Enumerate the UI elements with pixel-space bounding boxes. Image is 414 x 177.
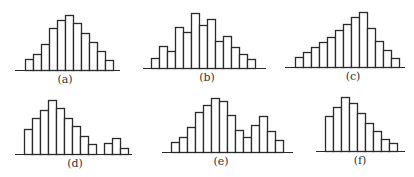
histogram-bar — [121, 149, 129, 155]
histogram-label-b: (b) — [187, 71, 227, 84]
histogram-bar — [58, 21, 66, 71]
histogram-bar — [57, 109, 65, 155]
histogram-bar — [276, 141, 284, 153]
histogram-bar — [248, 60, 256, 69]
histogram-a — [15, 16, 120, 71]
histogram-bar — [304, 53, 312, 68]
histogram-bar — [352, 18, 360, 68]
histogram-bar — [236, 131, 244, 153]
histogram-bar — [81, 137, 89, 155]
histogram-bar — [66, 16, 74, 71]
histogram-bar — [89, 145, 97, 155]
histogram-label-e: (e) — [201, 155, 241, 168]
histogram-bar — [184, 33, 192, 69]
histogram-bar — [228, 116, 236, 153]
histogram-bar — [334, 108, 342, 152]
histogram-bar — [152, 59, 160, 69]
histogram-bar — [82, 34, 90, 71]
histogram-bar — [216, 42, 224, 69]
histogram-bar — [260, 117, 268, 153]
histogram-bar — [73, 127, 81, 155]
histogram-bar — [358, 114, 366, 152]
histogram-bar — [200, 26, 208, 69]
histogram-bar — [220, 102, 228, 153]
histogram-d — [15, 101, 132, 155]
histogram-b — [143, 14, 266, 69]
histogram-bar — [49, 101, 57, 155]
histogram-bar — [212, 99, 220, 153]
histogram-bar — [42, 45, 50, 71]
histogram-bar — [33, 119, 41, 155]
histogram-bar — [366, 124, 374, 152]
histogram-bar — [50, 29, 58, 71]
histogram-bar — [105, 144, 113, 155]
histogram-bar — [344, 25, 352, 68]
histogram-bar — [180, 138, 188, 153]
histogram-bar — [160, 47, 168, 69]
histogram-bar — [232, 48, 240, 69]
histogram-f — [316, 98, 405, 152]
histogram-bar — [368, 29, 376, 68]
histogram-bar — [188, 128, 196, 153]
histogram-bar — [384, 51, 392, 68]
histogram-bar — [312, 48, 320, 68]
histogram-bar — [192, 14, 200, 69]
histogram-bar — [224, 37, 232, 69]
histogram-bar — [350, 104, 358, 152]
histogram-bar — [25, 130, 33, 155]
histogram-bar — [98, 52, 106, 71]
histogram-bar — [168, 52, 176, 69]
histogram-label-f: (f) — [340, 154, 380, 167]
histograms-svg — [0, 0, 414, 177]
histogram-bar — [34, 55, 42, 71]
histogram-bar — [376, 42, 384, 68]
histogram-bar — [204, 106, 212, 153]
histogram-bar — [172, 143, 180, 153]
histogram-bar — [382, 140, 390, 152]
histogram-bar — [65, 119, 73, 155]
histogram-bar — [326, 117, 334, 152]
histogram-bar — [390, 144, 398, 152]
histogram-bar — [26, 60, 34, 71]
histogram-label-c: (c) — [333, 70, 373, 83]
histogram-bar — [392, 59, 400, 68]
histogram-bar — [196, 113, 204, 153]
histogram-bar — [320, 43, 328, 68]
histogram-bar — [296, 58, 304, 68]
histogram-bar — [74, 24, 82, 71]
histogram-bar — [106, 61, 114, 71]
histogram-bar — [41, 111, 49, 155]
histogram-bar — [208, 20, 216, 69]
histogram-bar — [113, 139, 121, 155]
histogram-bar — [342, 98, 350, 152]
histogram-bar — [268, 132, 276, 153]
histogram-bar — [90, 43, 98, 71]
histogram-label-d: (d) — [55, 157, 95, 170]
histogram-label-a: (a) — [45, 73, 85, 86]
histogram-c — [285, 13, 405, 68]
histogram-bar — [244, 138, 252, 153]
histogram-bar — [360, 13, 368, 68]
histogram-bar — [240, 55, 248, 69]
histogram-bar — [252, 126, 260, 153]
histogram-bar — [336, 31, 344, 68]
histogram-bar — [176, 28, 184, 69]
histogram-bar — [374, 132, 382, 152]
histogram-e — [162, 99, 293, 153]
histogram-bar — [328, 38, 336, 68]
